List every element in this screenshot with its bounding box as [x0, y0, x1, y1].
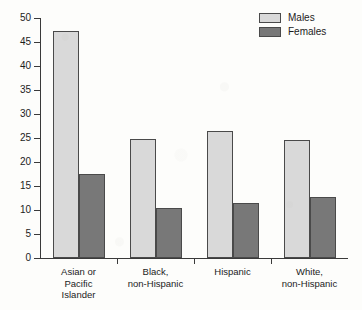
y-axis-tick-label: 20 — [5, 157, 31, 167]
y-axis-tick-label: 50 — [5, 13, 31, 23]
legend-item-females: Females — [259, 27, 326, 37]
y-axis-tick-label: 15 — [5, 181, 31, 191]
y-axis-tick — [34, 234, 40, 235]
legend-item-males: Males — [259, 13, 326, 23]
x-axis-category-label: Hispanic — [194, 266, 271, 278]
y-axis-tick-label: 5 — [5, 229, 31, 239]
y-axis-tick-label: 25 — [5, 133, 31, 143]
legend-swatch-females-icon — [259, 27, 281, 37]
y-axis-tick — [34, 138, 40, 139]
bar-males-1 — [130, 139, 156, 258]
y-axis-tick — [34, 162, 40, 163]
legend-label-females: Females — [288, 27, 326, 37]
bar-males-0 — [53, 31, 79, 258]
bar-females-0 — [79, 174, 105, 258]
x-axis-tick — [117, 259, 118, 264]
y-axis-tick — [34, 42, 40, 43]
y-axis-tick — [34, 18, 40, 19]
bar-females-3 — [310, 197, 336, 258]
y-axis-tick — [34, 66, 40, 67]
x-axis-category-label: Asian or Pacific Islander — [40, 266, 117, 301]
y-axis-tick-label: 45 — [5, 37, 31, 47]
bar-males-2 — [207, 131, 233, 258]
y-axis-tick-label: 30 — [5, 109, 31, 119]
y-axis-tick — [34, 114, 40, 115]
x-axis-tick — [194, 259, 195, 264]
bar-females-2 — [233, 203, 259, 258]
y-axis-line — [40, 18, 41, 259]
y-axis-tick — [34, 258, 40, 259]
x-axis-tick — [271, 259, 272, 264]
bar-females-1 — [156, 208, 182, 258]
y-axis-tick-label: 40 — [5, 61, 31, 71]
bar-chart: 05101520253035404550 Asian or Pacific Is… — [0, 0, 362, 310]
legend: Males Females — [259, 13, 326, 37]
x-axis-category-label: White, non-Hispanic — [271, 266, 348, 289]
y-axis-tick — [34, 210, 40, 211]
legend-label-males: Males — [288, 13, 315, 23]
bar-males-3 — [284, 140, 310, 258]
y-axis-tick-label: 10 — [5, 205, 31, 215]
y-axis-tick — [34, 186, 40, 187]
x-axis-category-label: Black, non-Hispanic — [117, 266, 194, 289]
legend-swatch-males-icon — [259, 13, 281, 23]
y-axis-tick-label: 0 — [5, 253, 31, 263]
y-axis-tick-label: 35 — [5, 85, 31, 95]
y-axis-tick — [34, 90, 40, 91]
